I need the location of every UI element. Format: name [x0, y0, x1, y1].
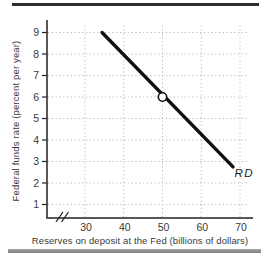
y-tick-label: 6 — [33, 91, 39, 103]
x-tick-label: 70 — [235, 221, 247, 233]
equilibrium-point — [158, 93, 166, 101]
y-tick-label: 4 — [33, 134, 39, 146]
axes — [47, 20, 253, 218]
x-tick-label: 40 — [119, 221, 131, 233]
chart-canvas: 1234567893040506070RD — [0, 0, 267, 260]
x-tick-label: 60 — [196, 221, 208, 233]
curve-label: RD — [235, 167, 255, 179]
rd-demand-line — [102, 33, 233, 167]
y-tick-label: 5 — [33, 112, 39, 124]
y-tick-label: 1 — [33, 198, 39, 210]
y-tick-label: 3 — [33, 155, 39, 167]
x-axis-title: Reserves on deposit at the Fed (billions… — [10, 235, 267, 246]
y-tick-label: 8 — [33, 48, 39, 60]
y-tick-label: 9 — [33, 26, 39, 38]
x-tick-label: 50 — [158, 221, 170, 233]
y-tick-label: 2 — [33, 177, 39, 189]
bottom-rule — [8, 249, 261, 253]
y-tick-label: 7 — [33, 69, 39, 81]
x-tick-label: 30 — [80, 221, 92, 233]
figure: Federal funds rate (percent per year) 12… — [0, 0, 267, 260]
